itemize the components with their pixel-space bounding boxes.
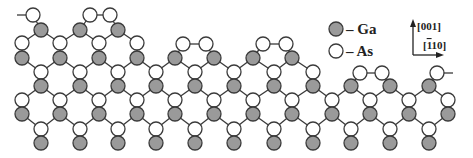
ga-atom — [111, 23, 125, 37]
as-atom — [199, 37, 213, 51]
as-atom — [279, 37, 293, 51]
ga-atom — [306, 136, 320, 150]
ga-atom — [73, 136, 87, 150]
as-atom — [441, 93, 455, 107]
as-atom — [207, 93, 221, 107]
ga-atom — [34, 136, 48, 150]
as-atom — [402, 93, 416, 107]
ga-atom — [92, 107, 106, 121]
ga-atom — [34, 79, 48, 93]
ga-atom — [383, 79, 397, 93]
as-atom — [176, 37, 190, 51]
as-atom — [34, 65, 48, 79]
ga-atom — [130, 51, 144, 65]
ga-atom — [130, 107, 144, 121]
as-atom — [53, 36, 67, 50]
as-atom — [306, 122, 320, 136]
ga-atom — [441, 107, 455, 121]
as-atom — [188, 122, 202, 136]
ga-atom — [285, 51, 299, 65]
arrow-up-icon — [410, 19, 416, 27]
crystal-direction-axes: [001] [110] — [410, 19, 446, 58]
as-atom — [227, 65, 241, 79]
as-atom — [188, 65, 202, 79]
as-atom — [73, 65, 87, 79]
as-atom-icon — [329, 44, 343, 58]
as-atom — [111, 122, 125, 136]
ga-atom — [111, 79, 125, 93]
ga-atom — [73, 23, 87, 37]
as-atom — [383, 122, 397, 136]
ga-atom — [306, 79, 320, 93]
as-atom — [285, 93, 299, 107]
as-atom — [149, 65, 163, 79]
lattice-atoms — [15, 8, 455, 150]
axis-label-001: [001] — [417, 20, 441, 32]
ga-atom — [168, 51, 182, 65]
ga-atom — [422, 79, 436, 93]
as-atom — [103, 8, 117, 22]
ga-atom — [207, 51, 221, 65]
axis-label-bar110-rest: 10] — [432, 39, 447, 51]
as-atom — [267, 122, 281, 136]
ga-atom — [246, 107, 260, 121]
as-atom — [168, 93, 182, 107]
ga-atom — [246, 51, 260, 65]
ga-atom — [344, 79, 358, 93]
as-atom — [53, 93, 67, 107]
as-atom — [15, 36, 29, 50]
ga-atom — [53, 51, 67, 65]
ga-atom — [363, 107, 377, 121]
ga-atom — [149, 136, 163, 150]
ga-atom — [285, 107, 299, 121]
as-atom — [267, 65, 281, 79]
as-atom — [149, 122, 163, 136]
axis-label-bar110: [110] — [423, 39, 446, 51]
ga-atom — [168, 107, 182, 121]
as-atom — [375, 66, 389, 80]
gaas-surface-reconstruction-diagram: – Ga – As [001] [110] — [0, 0, 473, 158]
ga-atom — [383, 136, 397, 150]
ga-atom-icon — [329, 22, 343, 36]
ga-atom — [111, 136, 125, 150]
ga-atom — [344, 136, 358, 150]
ga-atom — [92, 51, 106, 65]
as-atom — [34, 122, 48, 136]
ga-atom — [53, 107, 67, 121]
as-atom — [92, 93, 106, 107]
as-atom — [130, 93, 144, 107]
ga-atom — [188, 136, 202, 150]
as-atom — [246, 93, 260, 107]
as-atom — [227, 122, 241, 136]
ga-atom — [227, 79, 241, 93]
ga-atom — [267, 136, 281, 150]
ga-atom — [15, 51, 29, 65]
legend: – Ga – As — [329, 21, 377, 59]
ga-atom — [267, 79, 281, 93]
legend-item-as: – As — [329, 43, 373, 59]
as-atom — [422, 122, 436, 136]
as-atom — [344, 122, 358, 136]
as-atom — [130, 36, 144, 50]
ga-atom — [15, 107, 29, 121]
ga-atom — [422, 136, 436, 150]
as-atom — [73, 122, 87, 136]
arrow-right-icon — [436, 52, 444, 58]
as-atom — [363, 93, 377, 107]
legend-item-ga: – Ga — [329, 21, 377, 37]
as-atom — [353, 66, 367, 80]
as-atom — [306, 65, 320, 79]
legend-label-ga: – Ga — [345, 21, 377, 37]
as-atom — [256, 37, 270, 51]
as-atom — [325, 93, 339, 107]
as-atom — [430, 66, 444, 80]
ga-atom — [149, 79, 163, 93]
as-atom — [26, 8, 40, 22]
legend-label-as: – As — [345, 43, 373, 59]
as-atom — [15, 93, 29, 107]
ga-atom — [207, 107, 221, 121]
ga-atom — [73, 79, 87, 93]
ga-atom — [227, 136, 241, 150]
ga-atom — [325, 107, 339, 121]
ga-atom — [188, 79, 202, 93]
